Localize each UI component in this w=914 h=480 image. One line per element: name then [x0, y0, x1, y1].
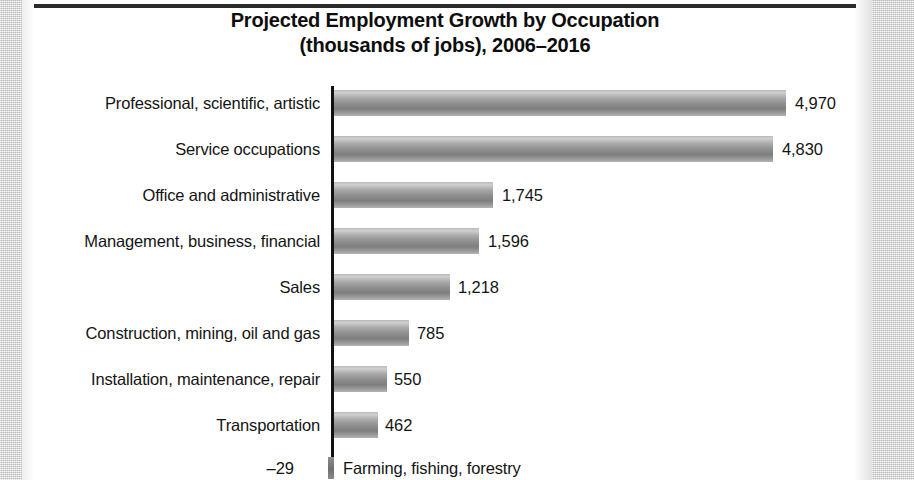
bar-row: Office and administrative 1,745: [0, 182, 914, 208]
bar-row: Management, business, financial 1,596: [0, 228, 914, 254]
bar-value-label: 785: [417, 324, 444, 343]
category-label: Installation, maintenance, repair: [91, 370, 320, 389]
bar-chart: Professional, scientific, artistic 4,970…: [0, 0, 914, 480]
bar-row: Construction, mining, oil and gas 785: [0, 320, 914, 346]
category-label: Transportation: [216, 416, 320, 435]
category-label: Construction, mining, oil and gas: [86, 324, 320, 343]
category-label: Management, business, financial: [84, 232, 320, 251]
bar-segment: [334, 320, 409, 346]
bar-segment: [334, 412, 378, 438]
bar-value-label: 4,970: [795, 94, 836, 113]
bar-row: Sales 1,218: [0, 274, 914, 300]
bar-segment: [334, 274, 450, 300]
category-label: Sales: [279, 278, 320, 297]
bar-value-label: 550: [394, 370, 421, 389]
bar-value-label: 462: [385, 416, 412, 435]
category-label: Professional, scientific, artistic: [105, 94, 320, 113]
bar-segment: [334, 228, 479, 254]
bar-segment: [334, 90, 786, 116]
bar-value-label: 4,830: [782, 140, 823, 159]
bar-value-label: –29: [266, 459, 294, 478]
category-label: Office and administrative: [142, 186, 320, 205]
bar-row: Installation, maintenance, repair 550: [0, 366, 914, 392]
bar-segment: [334, 182, 493, 208]
bar-segment-negative: [328, 457, 334, 479]
bar-row-negative: –29 Farming, fishing, forestry: [0, 455, 914, 480]
category-label: Farming, fishing, forestry: [343, 459, 521, 478]
bar-segment: [334, 366, 387, 392]
page-canvas: Projected Employment Growth by Occupatio…: [0, 0, 914, 480]
bar-value-label: 1,218: [458, 278, 499, 297]
bar-segment: [334, 136, 773, 162]
bar-value-label: 1,596: [488, 232, 529, 251]
bar-value-label: 1,745: [502, 186, 543, 205]
bar-row: Service occupations 4,830: [0, 136, 914, 162]
category-label: Service occupations: [175, 140, 320, 159]
bar-row: Professional, scientific, artistic 4,970: [0, 90, 914, 116]
bar-row: Transportation 462: [0, 412, 914, 438]
